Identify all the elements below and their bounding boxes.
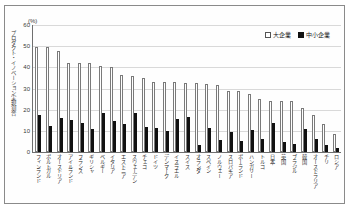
- bar-group[interactable]: [86, 25, 97, 152]
- bar-sme[interactable]: [81, 123, 84, 152]
- bar-sme[interactable]: [187, 117, 190, 152]
- bar-sme[interactable]: [113, 121, 116, 152]
- bar-sme[interactable]: [261, 139, 264, 152]
- chart-frame: (%) プロダクト・イノベーション実現割合 大企業 中小企業 010203040…: [4, 5, 345, 204]
- bar-group[interactable]: [256, 25, 267, 152]
- x-axis-category-label: ロシア: [334, 154, 340, 210]
- x-axis-category: スペイン: [204, 154, 215, 210]
- bar-group[interactable]: [44, 25, 55, 152]
- x-axis-category: オランダ: [193, 154, 204, 210]
- x-axis-category-label: スペイン: [206, 154, 212, 210]
- bar-group[interactable]: [150, 25, 161, 152]
- x-axis-category: ポルトガル: [44, 154, 55, 210]
- bar-group[interactable]: [267, 25, 278, 152]
- x-axis-category-label: 英国: [280, 154, 286, 210]
- x-axis-category: エストニア: [118, 154, 129, 210]
- bar-sme[interactable]: [283, 142, 286, 152]
- bar-group[interactable]: [129, 25, 140, 152]
- x-axis-category: ロシア: [331, 154, 342, 210]
- x-axis-category: ベルギー: [97, 154, 108, 210]
- bar-group[interactable]: [224, 25, 235, 152]
- bar-sme[interactable]: [315, 139, 318, 152]
- bar-group[interactable]: [320, 25, 331, 152]
- plot-area: 0102030405060: [32, 25, 341, 153]
- bar-sme[interactable]: [70, 120, 73, 152]
- bar-sme[interactable]: [208, 128, 211, 152]
- bar-group[interactable]: [246, 25, 257, 152]
- bar-sme[interactable]: [134, 113, 137, 152]
- x-axis-category-label: ハンガリー: [248, 154, 254, 210]
- bar-sme[interactable]: [38, 115, 41, 152]
- x-axis-category: スイス: [182, 154, 193, 210]
- bar-group[interactable]: [331, 25, 342, 152]
- bar-group[interactable]: [107, 25, 118, 152]
- x-axis-category-label: オーストラリア: [312, 154, 318, 210]
- x-axis-category-label: スウェーデン: [131, 154, 137, 210]
- bar-sme[interactable]: [240, 141, 243, 152]
- bar-sme[interactable]: [102, 113, 105, 152]
- x-axis-category-label: フィンランド: [35, 154, 41, 210]
- bar-group[interactable]: [76, 25, 87, 152]
- bar-group[interactable]: [299, 25, 310, 152]
- x-axis-category-label: フランス: [78, 154, 84, 210]
- bar-group[interactable]: [33, 25, 44, 152]
- bar-sme[interactable]: [49, 126, 52, 152]
- bar-sme[interactable]: [176, 119, 179, 152]
- x-axis-category-label: ポーランド: [238, 154, 244, 210]
- x-axis-category: ブラジル: [289, 154, 300, 210]
- x-axis-category-label: スロバキア: [227, 154, 233, 210]
- bar-group[interactable]: [54, 25, 65, 152]
- x-axis-category: イスラエル: [172, 154, 183, 210]
- x-axis-category-label: 韓国: [302, 154, 308, 210]
- bar-sme[interactable]: [230, 132, 233, 152]
- bar-sme[interactable]: [272, 123, 275, 152]
- bar-group[interactable]: [277, 25, 288, 152]
- bar-sme[interactable]: [251, 130, 254, 152]
- x-axis-category-label: チェコ: [142, 154, 148, 210]
- bar-group[interactable]: [235, 25, 246, 152]
- bar-sme[interactable]: [198, 145, 201, 152]
- x-axis-category-label: チリ: [323, 154, 329, 210]
- y-axis-tick-label: 0: [27, 149, 30, 155]
- x-axis-category: スロバキア: [225, 154, 236, 210]
- bar-group[interactable]: [97, 25, 108, 152]
- bar-group[interactable]: [214, 25, 225, 152]
- bar-sme[interactable]: [219, 140, 222, 152]
- x-axis-category-label: オランダ: [195, 154, 201, 210]
- bar-sme[interactable]: [304, 129, 307, 152]
- bar-group[interactable]: [182, 25, 193, 152]
- bar-sme[interactable]: [166, 131, 169, 152]
- x-axis-category: オーストリア: [54, 154, 65, 210]
- bar-sme[interactable]: [336, 148, 339, 152]
- y-axis-tick-label: 50: [23, 43, 30, 49]
- x-axis-category: スウェーデン: [129, 154, 140, 210]
- bar-sme[interactable]: [123, 124, 126, 152]
- x-axis-category-label: ドイツ: [153, 154, 159, 210]
- bar-group[interactable]: [309, 25, 320, 152]
- bar-group[interactable]: [118, 25, 129, 152]
- x-axis-category: ノルウェー: [214, 154, 225, 210]
- x-axis-line: [32, 152, 341, 153]
- bar-series-container: [33, 25, 341, 152]
- bar-group[interactable]: [139, 25, 150, 152]
- y-axis-tick-label: 40: [23, 64, 30, 70]
- bar-sme[interactable]: [60, 118, 63, 152]
- bar-group[interactable]: [288, 25, 299, 152]
- bar-group[interactable]: [65, 25, 76, 152]
- bar-large-enterprise[interactable]: [195, 83, 198, 152]
- bar-sme[interactable]: [325, 145, 328, 152]
- y-axis-tick-label: 60: [23, 22, 30, 28]
- bar-sme[interactable]: [145, 127, 148, 152]
- x-axis-category-label: トルコ: [259, 154, 265, 210]
- bar-group[interactable]: [171, 25, 182, 152]
- bar-group[interactable]: [203, 25, 214, 152]
- x-axis-category: フランス: [76, 154, 87, 210]
- bar-group[interactable]: [192, 25, 203, 152]
- bar-group[interactable]: [161, 25, 172, 152]
- x-axis-category: ポーランド: [235, 154, 246, 210]
- x-axis-category: ギリシャ: [86, 154, 97, 210]
- bar-sme[interactable]: [293, 144, 296, 152]
- x-axis-category-label: スイス: [185, 154, 191, 210]
- bar-sme[interactable]: [91, 129, 94, 152]
- bar-sme[interactable]: [155, 128, 158, 152]
